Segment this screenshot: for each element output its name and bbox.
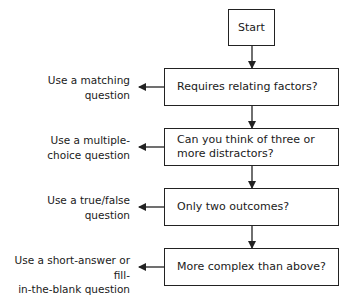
outcome-line: question	[0, 208, 130, 223]
decision-more-complex: More complex than above?	[164, 248, 339, 286]
outcome-line: in-the-blank question	[0, 282, 130, 297]
outcome-true-false: Use a true/false question	[0, 193, 130, 222]
decision-text: Requires relating factors?	[177, 80, 318, 94]
decision-text-line: Can you think of three or	[177, 133, 315, 147]
outcome-matching: Use a matching question	[0, 73, 130, 102]
outcome-line: question	[0, 88, 130, 103]
decision-three-distractors: Can you think of three or more distracto…	[164, 128, 339, 166]
decision-text: More complex than above?	[177, 260, 326, 274]
decision-text-line: more distractors?	[177, 147, 315, 161]
outcome-line: Use a true/false	[0, 193, 130, 208]
start-node: Start	[228, 9, 275, 46]
outcome-line: Use a short-answer or fill-	[0, 253, 130, 282]
start-label: Start	[238, 21, 265, 35]
outcome-line: choice question	[0, 148, 130, 163]
outcome-multiple-choice: Use a multiple- choice question	[0, 133, 130, 162]
outcome-short-answer: Use a short-answer or fill- in-the-blank…	[0, 253, 130, 297]
decision-two-outcomes: Only two outcomes?	[164, 188, 339, 226]
decision-text: Only two outcomes?	[177, 200, 289, 214]
outcome-line: Use a multiple-	[0, 133, 130, 148]
decision-relating-factors: Requires relating factors?	[164, 68, 339, 106]
outcome-line: Use a matching	[0, 73, 130, 88]
